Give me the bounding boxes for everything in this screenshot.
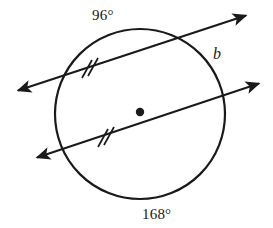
upper-parallel-secant-line — [18, 15, 246, 90]
circle-center-dot — [136, 108, 144, 116]
arc-measure-label-bottom: 168° — [142, 206, 171, 223]
geometry-canvas — [0, 0, 273, 228]
unknown-arc-label-b: b — [213, 45, 221, 63]
arc-measure-label-top: 96° — [92, 7, 114, 24]
geometry-figure: 96° 168° b — [0, 0, 273, 228]
